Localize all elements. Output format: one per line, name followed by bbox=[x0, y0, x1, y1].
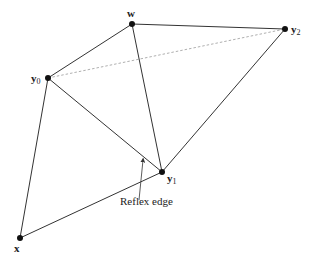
vertex-x bbox=[17, 235, 23, 241]
edge-w-y1 bbox=[132, 24, 162, 172]
label-y1: y1 bbox=[167, 172, 177, 186]
edge-w-y0 bbox=[48, 24, 132, 78]
edge-y0-x bbox=[20, 78, 48, 238]
reflex-edge-caption: Reflex edge bbox=[120, 195, 173, 207]
label-x: x bbox=[14, 242, 20, 254]
reflex-edge-arrow bbox=[139, 160, 143, 200]
edge-y0-y1-reflex bbox=[48, 78, 162, 172]
figure: w y0 y1 y2 x Reflex edge bbox=[0, 0, 316, 258]
label-y2: y2 bbox=[291, 23, 301, 37]
vertex-y2 bbox=[282, 26, 288, 32]
label-y0: y0 bbox=[31, 72, 41, 86]
edge-w-y2 bbox=[132, 24, 285, 29]
vertex-w bbox=[129, 21, 135, 27]
vertex-y0 bbox=[45, 75, 51, 81]
vertex-y1 bbox=[159, 169, 165, 175]
label-w: w bbox=[127, 7, 135, 19]
polyhedron-diagram: w y0 y1 y2 x Reflex edge bbox=[0, 0, 316, 258]
